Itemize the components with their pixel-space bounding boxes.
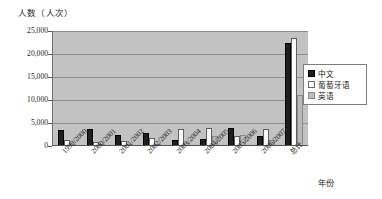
bar-group [284, 38, 304, 146]
legend-swatch-icon [308, 81, 315, 88]
legend-label: 英语 [318, 90, 334, 101]
bar-groups [53, 31, 308, 146]
chart-legend: 中文葡萄牙语英语 [303, 64, 367, 105]
y-axis-tick-label: 10,000 [2, 96, 48, 104]
plot-area [52, 31, 308, 146]
y-axis-tick-label: 5,000 [2, 119, 48, 127]
y-axis-tick-label: 25,000 [2, 27, 48, 35]
legend-label: 中文 [318, 68, 334, 79]
legend-swatch-icon [308, 92, 315, 99]
bar [297, 95, 303, 146]
legend-label: 葡萄牙语 [318, 79, 350, 90]
legend-item: 英语 [308, 90, 362, 101]
y-axis-tick-label: 20,000 [2, 50, 48, 58]
bar-chart: 人数（人次） 25,00020,00015,00010,0005,0000 19… [0, 0, 382, 199]
y-axis-ticks: 25,00020,00015,00010,0005,0000 [0, 31, 48, 146]
y-axis-tick-label: 15,000 [2, 73, 48, 81]
x-axis-title: 年份 [318, 176, 334, 188]
legend-item: 中文 [308, 68, 362, 79]
y-axis-title: 人数（人次） [18, 6, 73, 18]
legend-item: 葡萄牙语 [308, 79, 362, 90]
legend-swatch-icon [308, 70, 315, 77]
